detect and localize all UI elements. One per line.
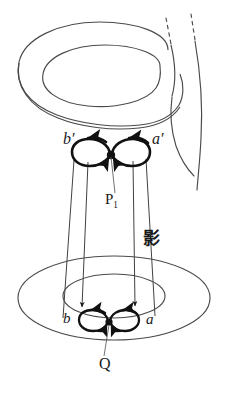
torus-outer-right-return — [179, 74, 183, 105]
torus-inner-hole — [43, 45, 161, 107]
label-b-prime: b′ — [63, 131, 75, 147]
label-p1: P1 — [105, 192, 118, 210]
upper-loops-group — [72, 138, 150, 166]
figure-canvas: b′ a′ P1 影 b a Q — [0, 0, 237, 396]
lower-loops-group — [79, 310, 139, 331]
tube-right-group — [166, 14, 202, 190]
diagram-svg — [0, 0, 237, 396]
label-a: a — [146, 312, 154, 327]
tube-left-lower — [171, 97, 194, 176]
label-shadow-cjk: 影 — [143, 230, 160, 247]
upper-loop-left-arc — [72, 139, 110, 166]
label-b: b — [63, 311, 71, 326]
lower-node-dot — [105, 318, 112, 325]
cone-line-outer-left — [63, 160, 74, 318]
cone-line-inner-left — [82, 162, 88, 307]
label-a-prime: a′ — [152, 131, 164, 147]
upper-loop-right-arc — [112, 139, 150, 166]
tube-right-edge-dashed — [191, 14, 195, 40]
tube-right-edge — [195, 41, 202, 190]
label-q: Q — [99, 356, 111, 372]
tube-left-edge-dashed — [166, 18, 171, 44]
leader-line-p1 — [111, 157, 115, 193]
upper-torus-group — [18, 22, 183, 129]
lower-loop-right-arrow-top — [123, 310, 137, 314]
projection-cone-group — [63, 159, 155, 318]
label-p1-subscript: 1 — [113, 200, 118, 210]
cone-line-inner-right — [133, 161, 135, 306]
tube-left-edge — [171, 45, 175, 96]
